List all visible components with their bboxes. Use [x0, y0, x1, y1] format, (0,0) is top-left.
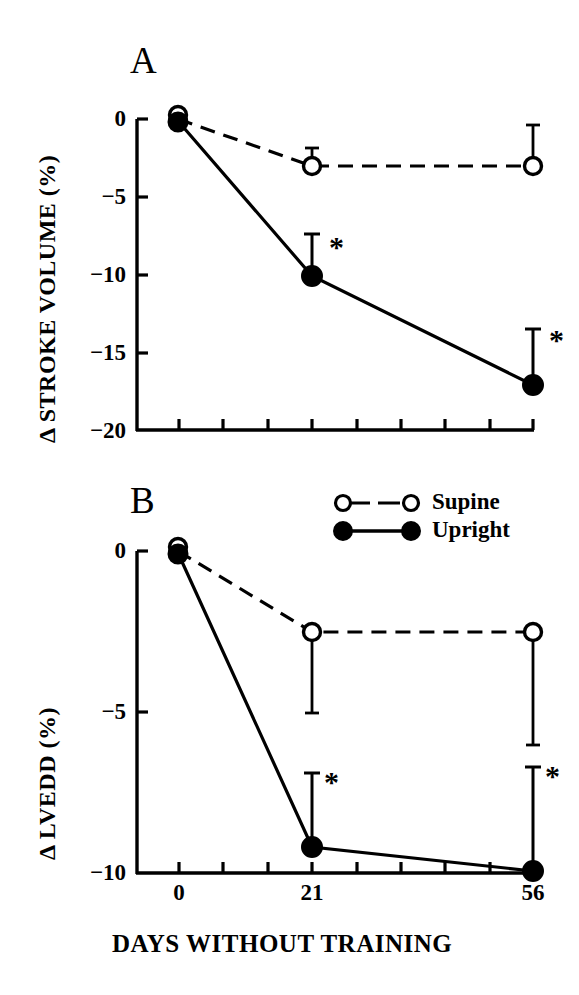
upright-point-a-56: [523, 375, 543, 395]
panel-b-series-upright: [169, 545, 544, 882]
upright-line-b: [178, 553, 533, 871]
panel-a-ytick-label-0: 0: [68, 106, 126, 132]
legend-marker-upright-right: [402, 522, 420, 540]
panel-a-axes: [136, 119, 534, 431]
panel-a-y-axis-title: Δ STROKE VOLUME (%): [34, 155, 61, 443]
legend-marker-supine-left: [336, 496, 351, 511]
legend-label-upright: Upright: [432, 517, 510, 543]
upright-point-a-21: [302, 266, 322, 286]
panel-a-series-supine: [170, 107, 542, 175]
upright-point-b-56: [523, 861, 543, 881]
panel-a-series-upright: [169, 113, 544, 396]
legend-label-supine: Supine: [432, 489, 500, 515]
supine-line-a: [178, 119, 533, 166]
panel-b-y-axis-title: Δ LVEDD (%): [34, 707, 61, 860]
upright-point-b-21: [302, 837, 322, 857]
upright-line-a: [178, 121, 533, 385]
legend-swatch-upright: [334, 522, 420, 540]
upright-point-a-0: [169, 113, 188, 132]
x-axis-title: DAYS WITHOUT TRAINING: [112, 930, 452, 958]
significance-star-a-56: *: [549, 325, 564, 355]
upright-point-b-0: [169, 545, 188, 564]
panel-b-ytick-label-1: −5: [58, 699, 126, 725]
supine-line-b: [178, 551, 533, 632]
panel-a-ytick-label-2: −10: [48, 262, 126, 288]
panel-a-ytick-label-3: −15: [48, 340, 126, 366]
significance-star-b-21: *: [324, 767, 339, 797]
panel-b-series-supine: [170, 539, 542, 746]
supine-point-a-56: [525, 158, 542, 175]
panel-a-letter: A: [130, 42, 157, 79]
panel-b-ytick-label-0: 0: [68, 538, 126, 564]
supine-point-a-21: [304, 158, 321, 175]
legend-marker-supine-right: [404, 496, 419, 511]
panel-b-letter: B: [130, 482, 155, 519]
panel-b-axes: [136, 551, 534, 874]
panel-a-ytick-label-1: −5: [58, 184, 126, 210]
significance-star-a-21: *: [329, 232, 344, 262]
x-tick-label-0: 0: [149, 880, 209, 906]
panel-a-ytick-label-4: −20: [48, 418, 126, 444]
supine-point-b-56: [525, 624, 542, 641]
x-tick-label-2: 56: [503, 880, 563, 906]
panel-b-ytick-label-2: −10: [48, 860, 126, 886]
supine-point-b-21: [304, 624, 321, 641]
legend-swatch-supine: [336, 496, 419, 511]
significance-star-b-56: *: [545, 761, 560, 791]
figure-container: A B Δ STROKE VOLUME (%) Δ LVEDD (%) DAYS…: [0, 0, 579, 995]
x-tick-label-1: 21: [282, 880, 342, 906]
legend-marker-upright-left: [334, 522, 352, 540]
